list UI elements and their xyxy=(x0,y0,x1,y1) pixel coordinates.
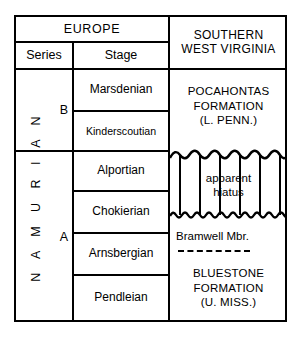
rule-subdivision-b-a xyxy=(16,150,72,152)
rule-stage-kinderscoutian-bottom xyxy=(72,150,168,152)
unit-bluestone-line3: (U. MISS.) xyxy=(201,295,257,310)
stage-label-marsdenian: Marsdenian xyxy=(90,83,153,97)
header-europe: EUROPE xyxy=(16,17,168,41)
rule-stage-arnsbergian-bottom xyxy=(72,274,168,276)
stage-cell-chokierian: Chokierian xyxy=(74,192,168,232)
rule-stage-alportian-bottom xyxy=(72,190,168,192)
unit-pocahontas-line2: FORMATION xyxy=(194,99,264,114)
unit-bluestone-line2: FORMATION xyxy=(194,281,264,296)
upper-unconformity-line xyxy=(170,151,287,159)
stage-label-alportian: Alportian xyxy=(97,164,144,178)
rule-stage-chokierian-bottom xyxy=(72,232,168,234)
unit-bramwell-member: Bramwell Mbr. xyxy=(170,226,287,248)
stage-label-kinderscoutian: Kinderscoutian xyxy=(86,125,156,137)
stage-cell-marsdenian: Marsdenian xyxy=(74,70,168,110)
rule-stage-marsdenian-bottom xyxy=(72,110,168,112)
header-region-line2: WEST VIRGINIA xyxy=(181,43,275,57)
series-namurian: N A M U R I A N xyxy=(16,70,56,322)
stage-label-pendleian: Pendleian xyxy=(94,291,147,305)
stratigraphic-chart: EUROPE SOUTHERN WEST VIRGINIA Series Sta… xyxy=(14,15,287,322)
subdivision-b-label: B xyxy=(60,103,68,117)
stage-label-arnsbergian: Arnsbergian xyxy=(89,247,154,261)
rule-header-europe-bottom xyxy=(16,41,168,43)
apparent-hiatus-label: apparent hiatus xyxy=(170,163,287,207)
stage-label-chokierian: Chokierian xyxy=(92,205,149,219)
hiatus-line1: apparent xyxy=(206,171,251,185)
header-stage: Stage xyxy=(74,43,168,68)
stage-cell-pendleian: Pendleian xyxy=(74,276,168,320)
unit-pocahontas-formation: POCAHONTAS FORMATION (L. PENN.) xyxy=(170,70,287,142)
header-series: Series xyxy=(16,43,72,68)
lower-unconformity-line xyxy=(170,213,287,218)
header-southern-west-virginia: SOUTHERN WEST VIRGINIA xyxy=(170,17,287,68)
subdivision-b: B xyxy=(56,70,72,150)
header-region-line1: SOUTHERN xyxy=(194,29,264,43)
hiatus-line2: hiatus xyxy=(213,185,244,199)
unit-bramwell-label: Bramwell Mbr. xyxy=(176,230,249,243)
subdivision-a: A xyxy=(56,152,72,322)
unit-bluestone-formation: BLUESTONE FORMATION (U. MISS.) xyxy=(170,257,287,319)
unit-pocahontas-line1: POCAHONTAS xyxy=(188,84,270,99)
series-namurian-label: N A M U R I A N xyxy=(29,111,43,282)
stage-cell-kinderscoutian: Kinderscoutian xyxy=(74,112,168,150)
bramwell-dashed-contact xyxy=(178,250,250,252)
subdivision-a-label: A xyxy=(60,230,68,244)
unit-pocahontas-line3: (L. PENN.) xyxy=(200,113,258,128)
stage-cell-alportian: Alportian xyxy=(74,152,168,190)
unit-bluestone-line1: BLUESTONE xyxy=(193,266,264,281)
stage-cell-arnsbergian: Arnsbergian xyxy=(74,234,168,274)
